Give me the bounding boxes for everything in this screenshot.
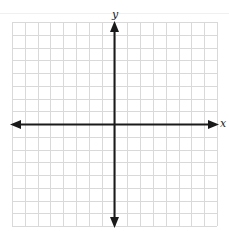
x-axis-left-arrow-icon xyxy=(10,120,21,129)
coordinate-grid xyxy=(0,0,229,236)
x-axis-label: x xyxy=(220,118,226,129)
y-axis-label: y xyxy=(112,9,118,20)
